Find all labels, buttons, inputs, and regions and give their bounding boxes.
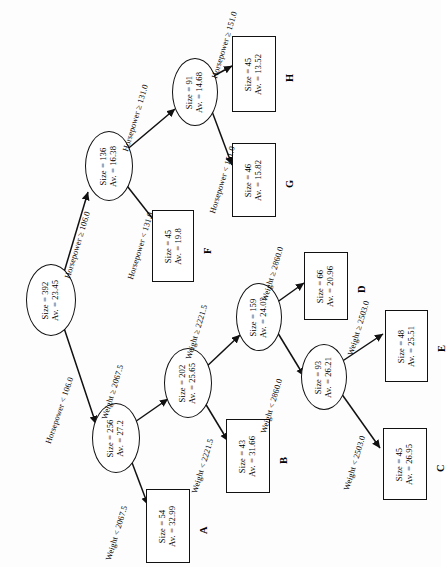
leaf-label-H: H	[284, 74, 295, 82]
leaf-node-E: Size = 48 Av. = 25.51	[385, 310, 428, 382]
leaf-node-F: Size = 45 Av. = 19.8	[152, 210, 194, 282]
node-root-average: Av. = 23.45	[51, 279, 61, 320]
leaf-H-average: Av. = 13.52	[254, 53, 264, 94]
leaf-label-D: D	[356, 285, 367, 293]
leaf-label-C: C	[435, 464, 446, 472]
leaf-D-size: Size = 66	[316, 265, 326, 306]
leaf-B-average: Av. = 31.66	[248, 435, 258, 476]
leaf-A-size: Size = 54	[158, 505, 168, 546]
leaf-node-G: Size = 46 Av. = 15.82	[232, 143, 276, 217]
node-n159: Size = 159 Av. = 24.03	[236, 283, 282, 351]
node-n93-average: Av. = 26.21	[324, 356, 334, 397]
leaf-E-average: Av. = 25.51	[407, 325, 417, 366]
node-n136-average: Av. = 16.38	[109, 145, 119, 186]
leaf-label-E: E	[436, 345, 447, 352]
leaf-label-G: G	[284, 180, 295, 188]
leaf-node-H: Size = 45 Av. = 13.52	[232, 36, 276, 112]
leaf-G-average: Av. = 15.82	[254, 159, 264, 200]
leaf-B-size: Size = 43	[238, 435, 248, 476]
edge-n256-to-n202	[132, 399, 168, 424]
leaf-label-F: F	[202, 248, 213, 254]
node-n256-average: Av. = 27.2	[116, 419, 126, 457]
leaf-A-average: Av. = 32.99	[168, 505, 178, 546]
node-n202-size: Size = 202	[178, 362, 188, 403]
node-n159-size: Size = 159	[249, 296, 259, 337]
node-n91: Size = 91 Av. = 14.68	[172, 58, 218, 126]
node-n256-size: Size = 256	[106, 419, 116, 457]
leaf-label-B: B	[278, 457, 289, 464]
leaf-G-size: Size = 46	[244, 159, 254, 200]
leaf-label-A: A	[198, 526, 209, 534]
leaf-F-average: Av. = 19.8	[173, 228, 183, 265]
leaf-node-D: Size = 66 Av. = 20.96	[304, 252, 348, 320]
leaf-H-size: Size = 45	[244, 53, 254, 94]
node-n93: Size = 93 Av. = 26.21	[301, 344, 347, 410]
leaf-node-A: Size = 54 Av. = 32.99	[146, 489, 190, 563]
leaf-E-size: Size = 48	[396, 325, 406, 366]
node-n202-average: Av. = 25.65	[188, 362, 198, 403]
leaf-node-C: Size = 45 Av. = 26.95	[383, 428, 427, 500]
edge-n159-to-n93	[276, 330, 304, 376]
leaf-C-average: Av. = 26.95	[405, 443, 415, 484]
edge-n202-to-n159	[204, 335, 240, 369]
edge-n159-to-D	[276, 283, 304, 303]
leaf-C-size: Size = 45	[395, 443, 405, 484]
leaf-D-average: Av. = 20.96	[326, 265, 336, 306]
node-n256: Size = 256 Av. = 27.2	[92, 403, 140, 473]
node-n93-size: Size = 93	[314, 356, 324, 397]
node-root-size: Size = 392	[41, 279, 51, 320]
node-n91-average: Av. = 14.68	[195, 71, 205, 112]
node-n136-size: Size = 136	[99, 145, 109, 186]
node-n91-size: Size = 91	[185, 71, 195, 112]
leaf-F-size: Size = 45	[163, 228, 173, 265]
edge-root-to-n256	[62, 322, 96, 424]
